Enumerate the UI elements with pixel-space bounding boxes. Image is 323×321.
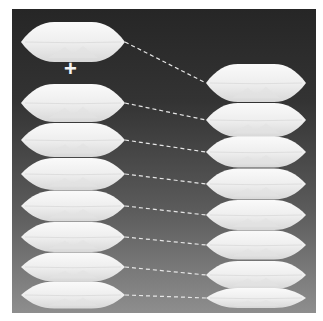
pillow-diagram [0,0,323,321]
left-stack-pillow [21,123,125,157]
left-stack-pillow [21,158,125,190]
dashed-connector [125,174,206,184]
right-stack-pillow [206,200,306,230]
dashed-connector [125,140,206,152]
right-stack-pillow [206,261,306,289]
dashed-connector [125,42,206,83]
right-stack-pillow [206,288,306,308]
left-stack-pillow [21,84,125,122]
right-stack-pillow [206,231,306,260]
dashed-connector [125,267,206,275]
left-stack-pillow [21,253,125,282]
right-stack-pillow [206,137,306,168]
right-stack-pillow [206,169,306,200]
plus-icon: + [64,58,77,80]
left-stack-pillow [21,222,125,252]
right-stack-pillow [206,64,306,102]
right-stack-pillow [206,103,306,137]
dashed-connector [125,103,206,120]
left-stack-pillow [21,191,125,222]
dashed-connector [125,295,206,298]
dashed-connector [125,206,206,215]
connector-lines [125,42,206,298]
left-stack-pillow [21,282,125,309]
dashed-connector [125,237,206,245]
